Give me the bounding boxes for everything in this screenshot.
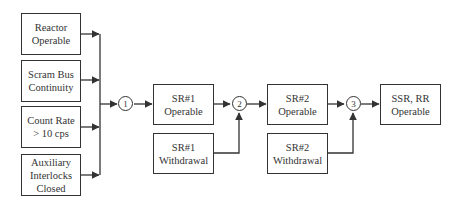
input-box-reactor-operable: Reactor Operable bbox=[21, 13, 81, 55]
final-label: SSR, RR Operable bbox=[391, 92, 429, 118]
input-label-reactor: Reactor Operable bbox=[32, 21, 70, 47]
box-sr2-withdrawal: SR#2 Withdrawal bbox=[267, 133, 328, 174]
input-label-scram: Scram Bus Continuity bbox=[28, 68, 74, 94]
node-1-label: 1 bbox=[123, 99, 128, 109]
box-sr2-operable: SR#2 Operable bbox=[267, 84, 328, 125]
input-label-count: Count Rate > 10 cps bbox=[27, 114, 75, 140]
node-3-label: 3 bbox=[351, 99, 356, 109]
input-box-auxiliary-interlocks: Auxiliary Interlocks Closed bbox=[21, 154, 81, 196]
sr2-withdrawal-label: SR#2 Withdrawal bbox=[273, 141, 322, 167]
box-ssr-rr-operable: SSR, RR Operable bbox=[380, 84, 441, 125]
node-2-label: 2 bbox=[237, 99, 242, 109]
input-box-count-rate: Count Rate > 10 cps bbox=[21, 106, 81, 148]
node-3: 3 bbox=[346, 96, 361, 111]
sr2-operable-label: SR#2 Operable bbox=[278, 92, 316, 118]
node-2: 2 bbox=[232, 96, 247, 111]
box-sr1-operable: SR#1 Operable bbox=[153, 84, 214, 125]
input-label-aux: Auxiliary Interlocks Closed bbox=[30, 156, 72, 195]
node-1: 1 bbox=[118, 96, 133, 111]
box-sr1-withdrawal: SR#1 Withdrawal bbox=[153, 133, 214, 174]
input-box-scram-bus: Scram Bus Continuity bbox=[21, 60, 81, 102]
sr1-operable-label: SR#1 Operable bbox=[164, 92, 202, 118]
sr1-withdrawal-label: SR#1 Withdrawal bbox=[159, 141, 208, 167]
